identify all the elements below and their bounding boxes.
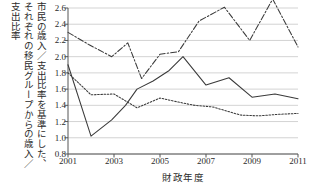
- y-tick-label: 1.8: [44, 68, 66, 78]
- x-axis-title: 財政年度: [68, 170, 298, 184]
- x-tick-label: 2001: [59, 156, 77, 166]
- x-tick-label: 2007: [197, 156, 215, 166]
- series-line-solid: [68, 57, 298, 136]
- x-tick-label: 2005: [151, 156, 169, 166]
- series-line-dashdot: [68, 0, 298, 79]
- y-tick-label: 1.2: [44, 117, 66, 127]
- x-tick-label: 2011: [289, 156, 307, 166]
- x-tick-label: 2009: [243, 156, 261, 166]
- x-tick-label: 2003: [105, 156, 123, 166]
- y-tick-label: 1.4: [44, 100, 66, 110]
- y-tick-label: 2.6: [44, 3, 66, 13]
- chart-figure: 市民の歳入／支出比率を基準にした、 それぞれの移民グループからの歳入／ 支出比率…: [0, 0, 310, 185]
- series-line-dotted: [68, 73, 298, 116]
- y-tick-label: 2.2: [44, 35, 66, 45]
- y-axis-label: 市民の歳入／支出比率を基準にした、 それぞれの移民グループからの歳入／ 支出比率: [2, 2, 46, 154]
- y-tick-label: 1.6: [44, 84, 66, 94]
- y-axis-ticks: 0.81.01.21.41.61.82.02.22.42.6: [42, 8, 66, 154]
- chart-canvas: [68, 8, 298, 154]
- y-axis-label-col-2: それぞれの移民グループからの歳入／: [20, 2, 33, 169]
- y-tick-label: 1.0: [44, 133, 66, 143]
- y-axis-label-col-3: 支出比率: [7, 2, 20, 41]
- y-tick-label: 2.4: [44, 19, 66, 29]
- y-tick-label: 2.0: [44, 52, 66, 62]
- plot-area: [68, 8, 298, 154]
